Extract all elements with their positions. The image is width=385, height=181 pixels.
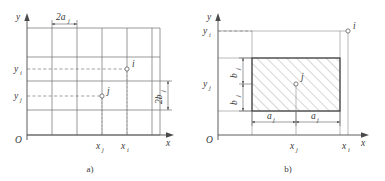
panel-b-dim-aj-right-sub: j	[316, 116, 319, 123]
panel-a: y x O i j y i y j x j	[13, 12, 174, 174]
panel-b-x-tick-i-label: x	[341, 141, 347, 151]
panel-b-point-i-label: i	[353, 21, 356, 31]
panel-b-dim-aj-left-sub: j	[272, 116, 275, 123]
panel-a-x-tick-i-label: x	[120, 141, 126, 151]
panel-b-dim-aj-left-label: a	[267, 111, 272, 121]
panel-a-y-tick-i: y i	[13, 64, 22, 76]
panel-a-x-tick-j-sub: j	[101, 146, 104, 153]
panel-b-dim-bj-lower-sub: j	[234, 95, 241, 98]
panel-a-y-tick-j-label: y	[13, 91, 19, 101]
panel-a-grid-vertical	[52, 28, 160, 135]
panel-a-dim-2aj-label: 2a	[56, 12, 66, 22]
panel-a-y-tick-j: y j	[13, 91, 22, 103]
panel-b-x-tick-j-label: x	[289, 141, 295, 151]
panel-b-x-tick-i: x i	[341, 141, 350, 153]
panel-a-point-j-label: j	[105, 86, 110, 96]
panel-b-y-tick-j: y j	[202, 79, 211, 91]
figure-container: y x O i j y i y j x j	[0, 0, 385, 181]
panel-a-x-tick-j-label: x	[95, 141, 101, 151]
panel-b-dim-aj-right-label: a	[311, 111, 316, 121]
diagram-svg: y x O i j y i y j x j	[0, 0, 385, 181]
panel-a-dim-2bj: 2b j	[154, 81, 172, 110]
panel-a-y-tick-i-label: y	[13, 64, 19, 74]
panel-b-point-i-marker	[346, 29, 350, 33]
panel-b-dim-bj-lower-label: b	[229, 100, 239, 105]
panel-b-dim-bj-lower: b j	[229, 84, 252, 111]
panel-b-y-tick-i-sub: i	[209, 31, 211, 38]
panel-b-caption: b)	[284, 164, 292, 174]
panel-b-y-axis-arrow	[215, 13, 220, 21]
panel-a-x-tick-j: x j	[95, 141, 104, 153]
panel-b-x-tick-i-sub: i	[348, 146, 350, 153]
panel-b-dim-bj-upper-label: b	[229, 73, 239, 78]
panel-b-y-tick-j-sub: j	[208, 84, 211, 91]
panel-b-point-j-marker	[294, 82, 298, 86]
panel-a-point-i-marker	[125, 67, 129, 71]
panel-a-y-axis-label: y	[15, 12, 21, 22]
panel-b-y-tick-i: y i	[202, 26, 211, 38]
panel-a-dim-2bj-sub: j	[159, 90, 166, 93]
panel-b-dim-bj-upper-sub: j	[234, 68, 241, 71]
panel-a-point-j-marker	[100, 94, 104, 98]
panel-a-grid-horizontal	[27, 28, 160, 135]
panel-a-point-i-label: i	[132, 59, 135, 69]
panel-b-dim-bj-upper: b j	[229, 58, 252, 84]
panel-a-dim-2aj: 2a j	[52, 12, 77, 28]
panel-a-dim-2aj-sub: j	[67, 17, 70, 24]
panel-a-x-tick-i-sub: i	[127, 146, 129, 153]
panel-a-x-axis-label: x	[165, 138, 171, 148]
panel-a-y-tick-j-sub: j	[19, 96, 22, 103]
panel-b-dim-aj-right: a j	[296, 111, 340, 126]
panel-b-x-axis-label: x	[360, 138, 366, 148]
panel-b-y-tick-i-label: y	[202, 26, 208, 36]
panel-b-x-axis-arrow	[361, 132, 369, 137]
panel-b-dim-aj-left: a j	[252, 111, 296, 126]
panel-a-y-axis-arrow	[24, 13, 29, 21]
panel-b-y-tick-j-label: y	[202, 79, 208, 89]
panel-b-origin-label: O	[206, 135, 213, 145]
panel-b-x-tick-j: x j	[289, 141, 298, 153]
panel-a-caption: a)	[87, 164, 94, 174]
panel-b: y x O i j y i y j x j x	[202, 12, 369, 174]
panel-a-x-axis-arrow	[166, 132, 174, 137]
panel-b-x-tick-j-sub: j	[295, 146, 298, 153]
panel-a-x-tick-i: x i	[120, 141, 129, 153]
panel-b-y-axis-label: y	[206, 12, 212, 22]
panel-a-y-tick-i-sub: i	[20, 69, 22, 76]
panel-a-origin-label: O	[15, 135, 22, 145]
panel-a-dim-2bj-label: 2b	[154, 94, 164, 104]
